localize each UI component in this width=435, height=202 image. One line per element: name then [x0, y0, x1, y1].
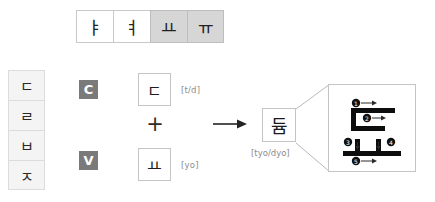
stroke-marker-5: 5	[352, 157, 360, 165]
hangul-syllable-composition-figure: ㅑ ㅕ ㅛ ㅠ ㄷ ㄹ ㅂ ㅈ C V ㄷ [t/d]	[0, 0, 435, 202]
vowel-cell-yeo[interactable]: ㅕ	[113, 10, 150, 43]
vowel-cell-yo[interactable]: ㅛ	[150, 10, 187, 43]
stroke-order-panel: 1 2 3 4 5	[328, 84, 416, 172]
stroke-marker-4: 4	[387, 138, 395, 146]
stroke-marker-1: 1	[352, 99, 360, 107]
consonant-romanization: [t/d]	[181, 85, 200, 95]
consonant-glyph: ㄹ	[20, 105, 34, 126]
stroke-number-label: 1	[354, 100, 358, 107]
vowel-badge: V	[79, 151, 98, 170]
consonant-glyph: ㅈ	[20, 165, 34, 186]
stroke-marker-3: 3	[344, 138, 352, 146]
vowel-glyph: ㅕ	[124, 14, 140, 39]
hangul-consonant-column: ㄷ ㄹ ㅂ ㅈ	[8, 70, 45, 190]
consonant-cell-bieup[interactable]: ㅂ	[8, 130, 45, 160]
equation-consonant-box: ㄷ	[138, 73, 171, 106]
equation-vowel-glyph: ㅛ	[147, 153, 162, 177]
consonant-badge-label: C	[84, 83, 94, 96]
consonant-cell-rieul[interactable]: ㄹ	[8, 100, 45, 130]
hangul-vowel-row: ㅑ ㅕ ㅛ ㅠ	[76, 10, 224, 43]
magnifier-connector-lines	[294, 84, 330, 172]
equation-consonant-glyph: ㄷ	[147, 78, 162, 102]
stroke-marker-2: 2	[363, 114, 371, 122]
equation-vowel-box: ㅛ	[138, 148, 171, 181]
stroke-number-label: 4	[389, 139, 393, 146]
consonant-cell-jieut[interactable]: ㅈ	[8, 160, 45, 190]
vowel-cell-yu[interactable]: ㅠ	[187, 10, 224, 43]
result-syllable-box: 듐	[262, 108, 296, 142]
stroke-order-diagram: 1 2 3 4 5	[329, 85, 416, 172]
vowel-glyph: ㅛ	[161, 14, 177, 39]
vowel-romanization: [yo]	[181, 160, 199, 170]
stroke-number-label: 5	[354, 158, 358, 165]
plus-operator-glyph: +	[146, 114, 164, 135]
consonant-glyph: ㅂ	[20, 135, 34, 156]
consonant-cell-digeut[interactable]: ㄷ	[8, 70, 45, 100]
vowel-badge-label: V	[83, 154, 93, 167]
right-arrow-icon	[213, 118, 247, 130]
result-syllable-glyph: 듐	[271, 112, 288, 138]
vowel-glyph: ㅠ	[198, 14, 214, 39]
vowel-glyph: ㅑ	[87, 14, 103, 39]
stroke-number-label: 2	[365, 115, 369, 122]
result-romanization: [tyo/dyo]	[251, 148, 290, 158]
consonant-glyph: ㄷ	[20, 75, 34, 96]
vowel-cell-ya[interactable]: ㅑ	[76, 10, 113, 43]
plus-operator: +	[146, 113, 164, 135]
digeut-strokes	[351, 108, 395, 131]
consonant-badge: C	[79, 80, 98, 99]
stroke-number-label: 3	[346, 139, 350, 146]
